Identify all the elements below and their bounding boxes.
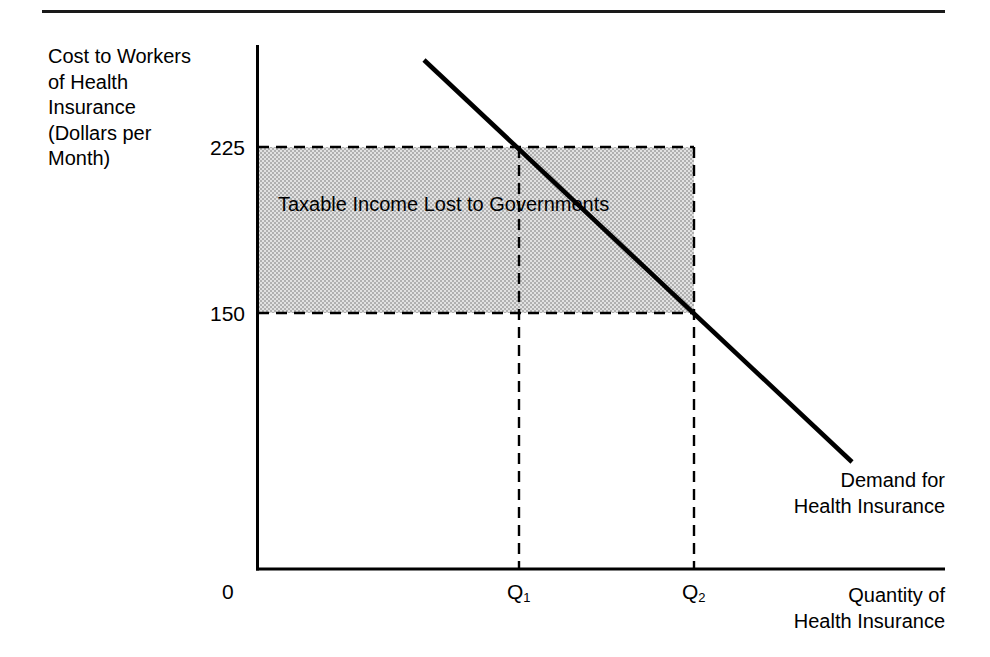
demand-curve-label: Demand for Health Insurance bbox=[700, 468, 945, 519]
x-axis-title: Quantity of Health Insurance bbox=[700, 583, 945, 634]
x-tick-label-q1-base: Q bbox=[507, 580, 523, 603]
chart-figure: Cost to Workers of Health Insurance (Dol… bbox=[0, 0, 990, 657]
x-tick-label-q1-subscript: 1 bbox=[523, 590, 530, 605]
y-tick-label-225: 225 bbox=[125, 137, 245, 158]
y-tick-label-150: 150 bbox=[125, 303, 245, 324]
x-tick-label-origin: 0 bbox=[222, 581, 234, 602]
x-tick-label-q1: Q1 bbox=[507, 581, 531, 605]
shaded-region-label: Taxable Income Lost to Governments bbox=[278, 192, 609, 216]
x-tick-label-q2-base: Q bbox=[682, 580, 698, 603]
shaded-region-taxable-income bbox=[258, 147, 694, 313]
